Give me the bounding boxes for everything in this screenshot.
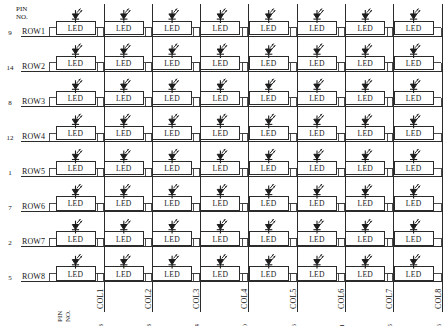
row-pin-number: 5 <box>8 274 12 282</box>
led-text-label: LED <box>68 270 84 279</box>
led-cathode-wire <box>288 28 296 36</box>
led-cathode-wire <box>192 203 200 211</box>
led-cathode-wire <box>95 63 103 71</box>
column-label: COL3 <box>192 289 201 309</box>
led-anode-wire <box>49 238 56 246</box>
led-text-label: LED <box>261 129 277 138</box>
led-box-layer <box>56 21 433 280</box>
led-text-label: LED <box>68 59 84 68</box>
led-cathode-wire <box>337 63 345 71</box>
led-cathode-wire <box>95 203 103 211</box>
row-label: ROW1 <box>22 27 45 36</box>
led-cathode-wire <box>192 98 200 106</box>
column-label: COL4 <box>240 289 249 309</box>
led-text-label: LED <box>309 164 325 173</box>
row-pin-number: 12 <box>7 134 15 142</box>
led-cathode-wire <box>95 98 103 106</box>
led-text-label: LED <box>116 199 132 208</box>
led-text-label: LED <box>357 199 373 208</box>
led-text-label: LED <box>68 24 84 33</box>
led-text-label: LED <box>261 199 277 208</box>
led-text-label: LED <box>164 24 180 33</box>
led-cathode-wire <box>192 238 200 246</box>
led-cathode-wire <box>288 168 296 176</box>
led-cathode-wire <box>433 273 441 281</box>
row-pin-number: 9 <box>8 29 12 37</box>
led-cathode-wire <box>385 133 393 141</box>
led-cathode-wire <box>385 273 393 281</box>
led-cathode-wire <box>192 28 200 36</box>
led-cathode-wire <box>192 63 200 71</box>
led-text-label: LED <box>213 199 229 208</box>
column-label: COL2 <box>144 289 153 309</box>
led-text-label: LED <box>116 94 132 103</box>
led-cathode-wire <box>143 238 151 246</box>
led-anode-wire <box>49 273 56 281</box>
led-text-label: LED <box>357 270 373 279</box>
led-cathode-wire <box>288 98 296 106</box>
led-cathode-wire <box>337 28 345 36</box>
led-text-label: LED <box>164 94 180 103</box>
led-cathode-wire <box>192 168 200 176</box>
led-cathode-wire <box>95 273 103 281</box>
led-cathode-wire <box>240 273 248 281</box>
led-text-label: LED <box>406 270 422 279</box>
row-label: ROW8 <box>22 272 45 281</box>
led-cathode-wire <box>192 133 200 141</box>
row-pin-number: 14 <box>7 64 15 72</box>
row-pin-number: 7 <box>8 204 12 212</box>
led-cathode-wire <box>337 238 345 246</box>
led-anode-wire <box>49 63 56 71</box>
led-text-label: LED <box>309 235 325 244</box>
led-text-label: LED <box>406 199 422 208</box>
led-text-label: LED <box>357 164 373 173</box>
led-text-label: LED <box>261 59 277 68</box>
led-cathode-wire <box>337 133 345 141</box>
led-text-label: LED <box>357 94 373 103</box>
led-text-label: LED <box>406 235 422 244</box>
row-pin-number: 8 <box>8 99 12 107</box>
led-text-label: LED <box>213 94 229 103</box>
led-cathode-wire <box>240 203 248 211</box>
led-text-label: LED <box>164 235 180 244</box>
led-text-label: LED <box>213 235 229 244</box>
led-cathode-wire <box>385 203 393 211</box>
led-cathode-wire <box>385 63 393 71</box>
led-text-label: LED <box>309 94 325 103</box>
led-matrix-schematic: LEDLEDLEDLEDLEDLEDLEDLEDLEDLEDLEDLEDLEDL… <box>0 0 443 326</box>
led-cathode-wire <box>192 273 200 281</box>
led-cathode-wire <box>433 63 441 71</box>
wire-layer <box>21 4 443 312</box>
pin-no-header-line2: NO. <box>16 13 28 21</box>
column-label: COL8 <box>434 289 443 309</box>
led-text-label: LED <box>406 59 422 68</box>
led-text-label: LED <box>357 129 373 138</box>
led-cathode-wire <box>143 133 151 141</box>
led-text-label: LED <box>261 94 277 103</box>
led-text-label: LED <box>213 270 229 279</box>
led-text-label: LED <box>309 199 325 208</box>
led-cathode-wire <box>385 168 393 176</box>
led-text-label: LED <box>116 164 132 173</box>
led-text-label: LED <box>116 235 132 244</box>
led-text-label: LED <box>261 270 277 279</box>
led-text-label: LED <box>406 24 422 33</box>
row-label: ROW5 <box>22 167 45 176</box>
led-text-label: LED <box>309 270 325 279</box>
led-cathode-wire <box>240 63 248 71</box>
led-cathode-wire <box>433 168 441 176</box>
led-text-label: LED <box>116 129 132 138</box>
led-cathode-wire <box>288 63 296 71</box>
led-cathode-wire <box>143 63 151 71</box>
led-text-label: LED <box>164 199 180 208</box>
led-text-label: LED <box>68 129 84 138</box>
led-cathode-wire <box>385 98 393 106</box>
pin-no-header-bottom-line2: NO. <box>64 310 72 322</box>
row-label: ROW6 <box>22 202 45 211</box>
led-cathode-wire <box>143 203 151 211</box>
led-cathode-wire <box>143 98 151 106</box>
led-cathode-wire <box>95 28 103 36</box>
row-label: ROW3 <box>22 97 45 106</box>
led-text-label: LED <box>309 59 325 68</box>
led-cathode-wire <box>385 238 393 246</box>
